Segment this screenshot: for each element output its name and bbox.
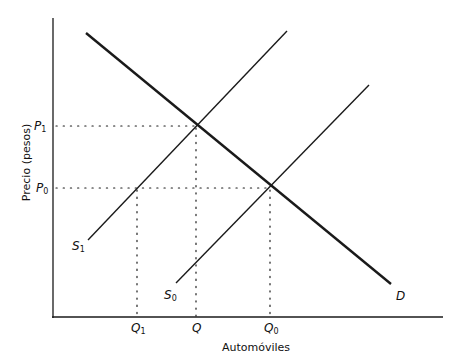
curve-label-d: D xyxy=(396,290,405,304)
x-axis-title: Automóviles xyxy=(222,341,290,354)
price-label-p0: P0 xyxy=(36,182,48,196)
supply-demand-diagram xyxy=(0,0,463,362)
supply-curve-s0 xyxy=(176,85,369,283)
quantity-label-q1: Q1 xyxy=(131,322,146,336)
quantity-label-q0: Q0 xyxy=(264,322,279,336)
price-label-p1: P1 xyxy=(34,120,46,134)
quantity-label-q: Q xyxy=(192,322,201,336)
supply-curve-s1 xyxy=(88,31,287,240)
demand-curve xyxy=(86,33,391,284)
curve-label-s1: S1 xyxy=(72,240,85,254)
curve-label-s0: S0 xyxy=(164,289,177,303)
y-axis-title: Precio (pesos) xyxy=(20,123,33,203)
